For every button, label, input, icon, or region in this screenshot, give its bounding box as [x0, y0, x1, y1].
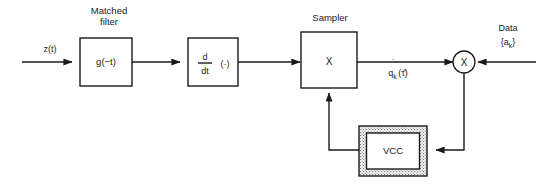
matched-filter-label: g(−t) [96, 56, 116, 67]
sampler-output-group: qk(τ̂) ̇ [357, 59, 453, 80]
svg-text:qk(τ̂): qk(τ̂) [388, 68, 407, 80]
multiplier-symbol: X [461, 57, 468, 68]
matched-filter-caption-line1: Matched [91, 5, 127, 16]
data-input-sequence: {ak} [501, 37, 515, 49]
sampler-caption: Sampler [312, 12, 347, 23]
matched-filter-block-group: Matched filter g(−t) [80, 5, 132, 86]
block-diagram-canvas: z(t) Matched filter g(−t) d dt (·) Sampl… [0, 0, 544, 190]
data-input-label: Data [498, 23, 517, 33]
differentiator-block-group: d dt (·) [188, 38, 238, 86]
differentiator-denominator: dt [201, 66, 209, 76]
feedback-multiplier-to-vcc-group [436, 73, 464, 150]
vcc-label: VCC [383, 145, 403, 156]
vcc-block-group: VCC [359, 126, 427, 176]
signal-q-subscript: k [393, 73, 397, 80]
differentiator-block[interactable] [188, 38, 238, 86]
input-signal-group: z(t) [22, 44, 72, 62]
sampler-block-group: Sampler X [301, 12, 357, 88]
data-input-group: Data {ak} [478, 23, 536, 62]
feedback-vcc-to-sampler-group [329, 93, 359, 150]
wire-multiplier-to-vcc [436, 73, 464, 150]
wire-vcc-to-sampler [329, 93, 359, 150]
input-signal-label: z(t) [44, 44, 57, 54]
sampler-label: X [326, 56, 333, 67]
differentiator-operand: (·) [221, 59, 230, 69]
data-seq-close: } [512, 37, 515, 47]
multiplier-group: X [453, 51, 475, 73]
signal-q-dot-accent: ̇ [392, 59, 394, 60]
matched-filter-caption-line2: filter [100, 16, 118, 27]
data-seq-open: {a [501, 37, 509, 47]
block-diagram-svg: z(t) Matched filter g(−t) d dt (·) Sampl… [0, 0, 544, 190]
signal-q-argument: (τ̂) [398, 68, 408, 78]
differentiator-numerator: d [202, 52, 207, 62]
